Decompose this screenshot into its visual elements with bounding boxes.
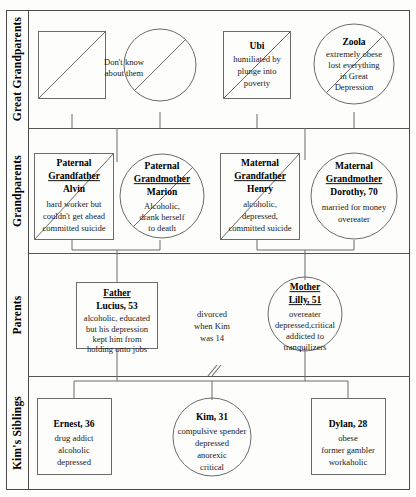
marion-desc-line-3: to death xyxy=(148,223,176,233)
marion-desc-line-1: Alcoholic, xyxy=(144,201,180,211)
lilly-desc-line-4: tranquilizers xyxy=(284,342,328,352)
dorothy-desc-line-1: married for money xyxy=(322,202,387,212)
dorothy-desc-line-2: overeater xyxy=(338,214,370,224)
ubi-name: Ubi xyxy=(250,41,265,51)
unknown-note-line-1: Don't know xyxy=(104,57,145,67)
alvin-desc-line-2: couldn't get ahead xyxy=(43,211,106,221)
person-node-mother-lilly[interactable]: Mother Lilly, 51 overeater depressed,cri… xyxy=(268,277,342,352)
kim-desc-line-4: critical xyxy=(200,462,224,472)
person-node-maternal-grandmother-dorothy[interactable]: Maternal Grandmother Dorothy, 70 married… xyxy=(311,153,397,239)
dylan-desc-line-1: obese xyxy=(338,433,358,443)
kim-desc-line-1: compulsive spender xyxy=(178,426,247,436)
genogram-page: Great Grandparents Grandparents Parents … xyxy=(0,0,416,497)
ubi-desc-line-3: poverty xyxy=(244,78,271,88)
ubi-desc-line-1: humiliated by xyxy=(233,54,281,64)
lilly-desc-line-2: depressed,critical xyxy=(275,320,336,330)
person-node-kim[interactable]: Kim, 31 compulsive spender depressed ano… xyxy=(173,398,251,476)
lilly-name: Lilly, 51 xyxy=(289,295,322,305)
divorce-note-line-3: was 14 xyxy=(200,333,225,343)
kim-desc-line-3: anorexic xyxy=(197,450,227,460)
alvin-desc-line-3: committed suicide xyxy=(42,223,105,233)
row-label-great-grandparents: Great Grandparents xyxy=(11,16,24,121)
lilly-title: Mother xyxy=(290,282,321,292)
lilly-desc-line-3: addicted to xyxy=(286,331,324,341)
person-node-ggf-unknown[interactable] xyxy=(39,32,106,99)
row-label-parents: Parents xyxy=(11,295,23,334)
henry-title-line-1: Maternal xyxy=(241,158,279,168)
row-label-grandparents: Grandparents xyxy=(11,155,24,227)
zoola-desc-line-4: Depression xyxy=(335,82,374,92)
henry-desc-line-1: alcoholic, xyxy=(243,199,277,209)
unknown-note-line-2: about them xyxy=(105,68,144,78)
marion-title-line-1: Paternal xyxy=(145,161,180,171)
person-node-father-lucius[interactable]: Father Lucius, 53 alcoholic, educated bu… xyxy=(77,283,158,354)
ubi-desc-line-2: plunge into xyxy=(238,66,277,76)
alvin-title-line-1: Paternal xyxy=(57,158,92,168)
marion-name: Marion xyxy=(147,187,178,197)
henry-name: Henry xyxy=(247,184,273,194)
dylan-name: Dylan, 28 xyxy=(329,419,368,429)
ernest-desc-line-3: depressed xyxy=(57,457,92,467)
dylan-desc-line-3: workaholic xyxy=(329,457,368,467)
lucius-desc-line-1: alcoholic, educated xyxy=(84,313,151,323)
person-node-ernest[interactable]: Ernest, 36 drug addict alcoholic depress… xyxy=(38,399,112,475)
zoola-desc-line-3: in Great xyxy=(340,71,369,81)
ernest-name: Ernest, 36 xyxy=(53,419,94,429)
ggf-unknown-deceased-slash xyxy=(39,32,106,99)
divorce-marker-icon xyxy=(208,365,221,376)
genogram-canvas: Great Grandparents Grandparents Parents … xyxy=(0,0,416,497)
person-node-zoola[interactable]: Zoola extremely obese lost everything in… xyxy=(314,24,394,104)
alvin-name: Alvin xyxy=(63,184,86,194)
lilly-desc-line-1: overeater xyxy=(289,309,321,319)
person-node-paternal-grandfather-alvin[interactable]: Paternal Grandfather Alvin hard worker b… xyxy=(35,154,114,240)
person-node-maternal-grandfather-henry[interactable]: Maternal Grandfather Henry alcoholic, de… xyxy=(221,154,300,240)
alvin-desc-line-1: hard worker but xyxy=(47,199,102,209)
person-node-ubi[interactable]: Ubi humiliated by plunge into poverty xyxy=(224,32,291,99)
kim-name: Kim, 31 xyxy=(196,412,228,422)
zoola-desc-line-2: lost everything xyxy=(328,60,380,70)
ernest-desc-line-1: drug addict xyxy=(55,433,95,443)
marion-desc-line-2: drank herself xyxy=(139,212,184,222)
dorothy-name: Dorothy, 70 xyxy=(330,187,378,197)
dorothy-title-line-1: Maternal xyxy=(335,161,373,171)
divorce-note-line-1: divorced xyxy=(197,309,228,319)
dylan-desc-line-2: former gambler xyxy=(321,445,375,455)
person-node-dylan[interactable]: Dylan, 28 obese former gambler workaholi… xyxy=(312,399,386,475)
henry-desc-line-3: committed suicide xyxy=(228,223,291,233)
kim-desc-line-2: depressed xyxy=(195,438,230,448)
alvin-title-line-2: Grandfather xyxy=(48,171,101,181)
lucius-desc-line-4: holding onto jobs xyxy=(87,344,148,354)
marion-title-line-2: Grandmother xyxy=(134,174,191,184)
row-label-kims-siblings: Kim's Siblings xyxy=(11,396,24,470)
zoola-desc-line-1: extremely obese xyxy=(326,49,382,59)
lucius-desc-line-3: kept him from xyxy=(92,334,141,344)
lucius-name: Lucius, 53 xyxy=(96,301,138,311)
lucius-desc-line-2: but his depression xyxy=(86,324,149,334)
dorothy-title-line-2: Grandmother xyxy=(326,174,383,184)
henry-desc-line-2: depressed, xyxy=(242,211,278,221)
ernest-desc-line-2: alcoholic xyxy=(58,445,90,455)
lucius-title: Father xyxy=(103,288,131,298)
person-node-paternal-grandmother-marion[interactable]: Paternal Grandmother Marion Alcoholic, d… xyxy=(120,154,204,238)
annotation-unknown-note: Don't know about them xyxy=(104,57,145,78)
zoola-name: Zoola xyxy=(342,37,365,47)
henry-title-line-2: Grandfather xyxy=(234,171,287,181)
divorce-note-line-2: when Kim xyxy=(194,321,230,331)
annotation-divorce-note: divorced when Kim was 14 xyxy=(194,309,230,343)
